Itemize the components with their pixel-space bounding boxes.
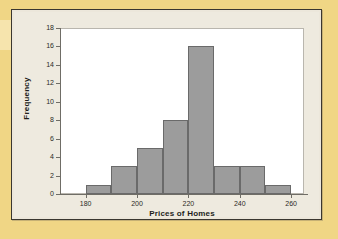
x-axis-tick-label: 260 [276, 200, 306, 207]
y-axis-tick-label: 0 [32, 190, 54, 198]
y-axis-tick [56, 28, 60, 29]
y-axis-tick-label: 8 [32, 116, 54, 124]
y-axis-tick [56, 83, 60, 84]
y-axis-tick [56, 139, 60, 140]
x-axis-tick [291, 194, 292, 198]
y-axis-tick [56, 120, 60, 121]
y-axis-line [60, 28, 61, 195]
histogram-bar [137, 148, 163, 194]
y-axis-title: Frequency [22, 64, 31, 134]
page-background: 024681012141618 180200220240260 Prices o… [0, 0, 338, 239]
x-axis-title: Prices of Homes [60, 209, 304, 218]
y-axis-tick-label: 4 [32, 153, 54, 161]
y-axis-tick-label: 18 [32, 24, 54, 32]
histogram-bar [214, 166, 240, 194]
x-axis-tick-label: 180 [71, 200, 101, 207]
histogram-bar [265, 185, 291, 194]
histogram-bar [86, 185, 112, 194]
y-axis-tick [56, 176, 60, 177]
x-axis-tick [188, 194, 189, 198]
x-axis-line [56, 194, 308, 195]
x-axis-tick-label: 240 [225, 200, 255, 207]
x-axis-tick [86, 194, 87, 198]
histogram-bar [163, 120, 189, 194]
y-axis-tick [56, 46, 60, 47]
y-axis-tick [56, 194, 60, 195]
figure-frame: 024681012141618 180200220240260 Prices o… [11, 9, 322, 220]
y-axis-tick [56, 157, 60, 158]
histogram-bar [111, 166, 137, 194]
y-axis-tick-label: 2 [32, 172, 54, 180]
figure-panel: 024681012141618 180200220240260 Prices o… [14, 12, 319, 217]
y-axis-tick [56, 65, 60, 66]
histogram-bar [240, 166, 266, 194]
histogram-bar [188, 46, 214, 194]
x-axis-tick-label: 200 [122, 200, 152, 207]
y-axis-tick-label: 16 [32, 42, 54, 50]
histogram-bars [60, 28, 304, 194]
x-axis-tick [240, 194, 241, 198]
x-axis-tick [137, 194, 138, 198]
y-axis-tick-label: 12 [32, 79, 54, 87]
y-axis-tick-label: 14 [32, 61, 54, 69]
x-axis-tick-label: 220 [173, 200, 203, 207]
y-axis-tick [56, 102, 60, 103]
y-axis-tick-label: 10 [32, 98, 54, 106]
y-axis-tick-label: 6 [32, 135, 54, 143]
